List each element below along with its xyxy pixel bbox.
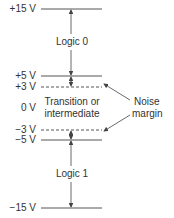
region-logic0-label: Logic 0 — [52, 36, 92, 47]
region-transition-label-line1: Transition or — [43, 96, 101, 107]
label-plus5v: +5 V — [2, 70, 36, 81]
noise-margin-label-line1: Noise — [134, 96, 160, 107]
label-plus15v: +15 V — [2, 3, 36, 14]
noise-margin-pointer-upper — [104, 84, 130, 100]
noise-margin-label-line2: margin — [132, 108, 163, 119]
label-0v: 0 V — [2, 102, 36, 113]
noise-margin-pointer-lower — [104, 115, 130, 131]
region-logic1-label: Logic 1 — [52, 168, 92, 179]
label-minus15v: −15 V — [2, 202, 36, 213]
region-transition-label-line2: intermediate — [43, 108, 101, 119]
label-plus3v: +3 V — [2, 81, 36, 92]
label-minus5v: −5 V — [2, 134, 36, 145]
